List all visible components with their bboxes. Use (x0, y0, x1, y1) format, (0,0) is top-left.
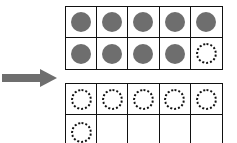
frame-cell (97, 115, 128, 143)
dotted-circle-icon (102, 89, 123, 110)
frame-cell (128, 38, 159, 69)
frame-cell (191, 7, 222, 38)
ten-frame-bottom (65, 83, 223, 143)
frame-cell (97, 7, 128, 38)
filled-counter-icon (133, 12, 153, 32)
dotted-circle-icon (196, 43, 217, 64)
dotted-circle-icon (196, 89, 217, 110)
filled-counter-icon (102, 44, 122, 64)
frame-cell (128, 84, 159, 115)
filled-counter-icon (165, 44, 185, 64)
dotted-circle-icon (71, 89, 92, 110)
frame-cell (128, 115, 159, 143)
frame-cell (66, 7, 97, 38)
filled-counter-icon (165, 12, 185, 32)
filled-counter-icon (133, 44, 153, 64)
ten-frame-top (65, 6, 223, 70)
frame-cell (160, 115, 191, 143)
filled-counter-icon (196, 12, 216, 32)
frame-cell (97, 84, 128, 115)
frame-cell (66, 38, 97, 69)
frame-cell (191, 38, 222, 69)
right-arrow-icon (2, 69, 58, 89)
frame-cell (160, 84, 191, 115)
frame-cell (191, 84, 222, 115)
frame-cell (66, 84, 97, 115)
frame-cell (66, 115, 97, 143)
frame-cell (160, 38, 191, 69)
frame-cell (97, 38, 128, 69)
frame-cell (191, 115, 222, 143)
dotted-circle-icon (71, 122, 92, 143)
frame-cell (160, 7, 191, 38)
dotted-circle-icon (164, 89, 185, 110)
frame-cell (128, 7, 159, 38)
dotted-circle-icon (133, 89, 154, 110)
filled-counter-icon (71, 44, 91, 64)
filled-counter-icon (102, 12, 122, 32)
filled-counter-icon (71, 12, 91, 32)
